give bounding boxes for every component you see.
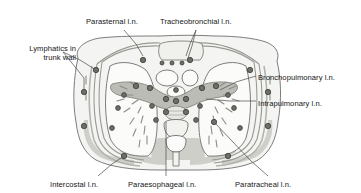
node-parasternal <box>160 61 164 65</box>
label-intrapulmonary: Intrapulmonary l.n. <box>258 99 322 108</box>
node-paraesophageal <box>183 109 188 114</box>
node-parasternal <box>170 61 174 65</box>
node-paraesophageal <box>163 109 168 114</box>
node-bronchopulmonary <box>213 83 218 88</box>
node-tracheobronchial <box>173 98 178 103</box>
node-intrapulmonary <box>122 93 127 98</box>
node-paratracheal <box>154 118 159 123</box>
node-intercostal <box>110 126 115 131</box>
node-intrapulmonary <box>150 104 155 109</box>
node-intercostal <box>121 153 126 158</box>
node-intrapulmonary <box>232 106 237 111</box>
node-intrapulmonary <box>116 106 121 111</box>
node-trunk-wall <box>81 123 86 128</box>
node-intercostal <box>225 153 230 158</box>
label-parasternal: Parasternal l.n. <box>86 17 138 26</box>
node-trunk-wall <box>265 89 270 94</box>
node-paratracheal <box>194 118 199 123</box>
thorax-lymph-node-diagram: Parasternal l.n. Tracheobronchial l.n. L… <box>0 0 361 193</box>
node-tracheobronchial <box>163 96 168 101</box>
node-trunk-wall <box>93 67 98 72</box>
label-tracheobronchial: Tracheobronchial l.n. <box>160 17 232 26</box>
label-bronchopulmonary: Bronchopulmonary l.n. <box>258 73 335 82</box>
node-tracheobronchial <box>174 88 179 93</box>
node-parasternal <box>187 57 192 62</box>
node-trunk-wall <box>247 67 252 72</box>
label-intercostal: Intercostal l.n. <box>50 180 98 189</box>
node-trunk-wall <box>81 89 86 94</box>
label-paratracheal: Paratracheal l.n. <box>235 180 291 189</box>
label-paraesophageal: Paraesophageal l.n. <box>128 180 197 189</box>
node-bronchopulmonary <box>199 85 204 90</box>
node-intercostal <box>238 126 243 131</box>
label-lymphatics-trunk-wall: Lymphatics intrunk wall <box>2 44 76 62</box>
sternum <box>159 41 204 60</box>
node-intrapulmonary <box>226 93 231 98</box>
node-intercostal <box>211 119 216 124</box>
node-intrapulmonary <box>198 104 203 109</box>
node-bronchopulmonary <box>147 85 152 90</box>
node-bronchopulmonary <box>133 83 138 88</box>
anatomy-illustration <box>0 0 361 193</box>
node-parasternal <box>140 57 145 62</box>
node-parasternal <box>180 61 184 65</box>
node-trunk-wall <box>265 123 270 128</box>
node-tracheobronchial <box>183 96 188 101</box>
